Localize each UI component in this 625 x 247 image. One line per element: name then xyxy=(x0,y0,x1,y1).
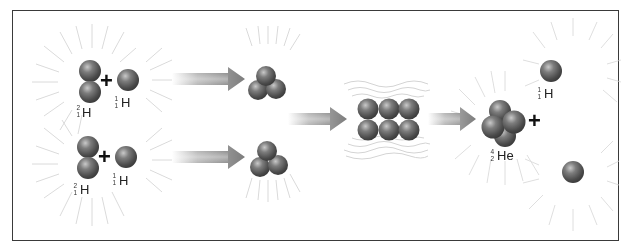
plus-sign-bottom: + xyxy=(98,146,111,168)
helium3-cluster-bottom xyxy=(250,141,288,177)
released-proton-symbol: H xyxy=(544,87,553,100)
proton-top-mass-number: 1 xyxy=(110,95,118,102)
helium-atomic-number: 2 xyxy=(486,155,494,162)
glow-rays-bottom-left xyxy=(32,120,176,226)
helium3-cluster-top xyxy=(248,66,286,100)
arrow-stage3 xyxy=(428,107,476,131)
arrow-stage1-bottom xyxy=(172,145,245,169)
proton-top-symbol: H xyxy=(121,96,130,109)
plus-sign-top: + xyxy=(100,70,113,92)
deuterium-top-symbol: H xyxy=(82,106,91,119)
proton-top-atomic-number: 1 xyxy=(110,102,118,109)
deuterium-bottom-symbol: H xyxy=(80,183,89,196)
proton-bottom-mass-number: 1 xyxy=(108,172,116,179)
proton-top xyxy=(117,69,139,91)
deuterium-nucleus-top xyxy=(79,60,101,103)
proton-bottom-atomic-number: 1 xyxy=(108,179,116,186)
released-proton-atomic-number: 1 xyxy=(533,93,541,100)
helium-mass-number: 4 xyxy=(486,148,494,155)
released-proton-top xyxy=(540,60,562,82)
helium-symbol: He xyxy=(497,149,514,162)
deuterium-top-mass-number: 2 xyxy=(72,104,80,111)
deuterium-nucleus-bottom xyxy=(77,136,99,179)
arrow-stage1-top xyxy=(172,67,245,91)
deuterium-top-atomic-number: 1 xyxy=(72,111,80,118)
plus-sign-products: + xyxy=(528,110,541,132)
helium4-cluster xyxy=(482,100,526,147)
deuterium-bottom-mass-number: 2 xyxy=(69,182,77,189)
deuterium-bottom-atomic-number: 1 xyxy=(69,189,77,196)
six-nucleon-cluster xyxy=(358,99,420,141)
released-proton-bottom xyxy=(562,161,584,183)
arrow-stage2 xyxy=(288,107,347,131)
released-proton-mass-number: 1 xyxy=(533,86,541,93)
proton-bottom-symbol: H xyxy=(119,174,128,187)
proton-bottom xyxy=(115,146,137,168)
